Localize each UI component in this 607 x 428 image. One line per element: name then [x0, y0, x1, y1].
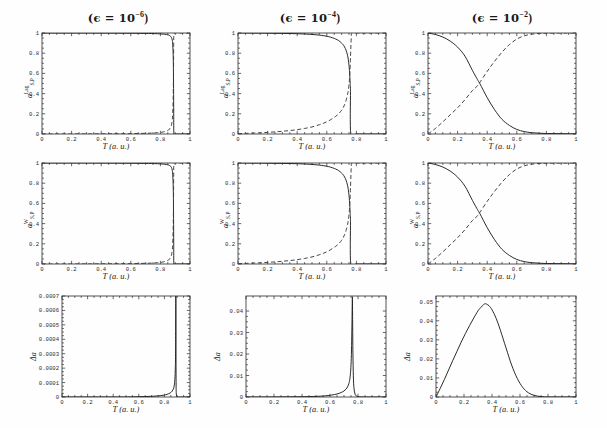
plot-svg-panel-r1c1: 00.20.40.60.8100.20.40.60.81T (a. u.) [22, 29, 196, 150]
x-axis-label: T (a. u.) [303, 405, 330, 413]
x-tick-label: 0 [236, 136, 240, 143]
x-tick-label: 1 [188, 266, 192, 273]
x-tick-label: 0.2 [453, 266, 463, 273]
x-tick-label: 0 [434, 399, 438, 406]
plot-frame [246, 296, 386, 397]
y-label-sup: Lag [409, 85, 415, 93]
y-tick-label: 0.0004 [39, 336, 60, 343]
y-tick-label: 0.8 [29, 180, 39, 187]
plot-panel-r1c1: 00.20.40.60.8100.20.40.60.81T (a. u.)aLa… [22, 29, 196, 150]
y-axis-label: aWS,P [409, 211, 421, 227]
x-tick-label: 0.8 [159, 399, 169, 406]
x-tick-label: 0.2 [263, 266, 273, 273]
series-solid-0 [428, 163, 576, 264]
plot-panel-r3c3: 00.20.40.60.8100.010.020.030.040.05T (a.… [402, 292, 582, 413]
epsilon-text: (ϵ = 10 [472, 11, 520, 25]
y-tick-label: 0.01 [420, 375, 434, 382]
series-solid-0 [238, 163, 386, 267]
x-tick-label: 0.8 [351, 266, 361, 273]
y-tick-label: 1 [232, 30, 236, 37]
y-tick-label: 0 [430, 394, 434, 401]
y-tick-label: 1 [232, 160, 236, 167]
x-tick-label: 0.2 [83, 399, 93, 406]
y-label-sub: S,P [29, 211, 35, 218]
x-tick-label: 0 [244, 399, 248, 406]
y-tick-label: 0.02 [230, 351, 243, 358]
x-axis-label: T (a. u.) [489, 142, 516, 150]
y-tick-label: 1 [36, 160, 40, 167]
y-tick-label: 0.6 [29, 70, 39, 77]
epsilon-paren-close: ) [336, 12, 340, 24]
x-tick-label: 0.8 [541, 266, 551, 273]
epsilon-paren-close: ) [144, 12, 148, 24]
y-tick-label: 0.04 [230, 308, 244, 315]
plot-panel-r3c2: 00.20.40.60.8100.010.020.030.04T (a. u.)… [212, 292, 392, 413]
y-label-base: Δa [403, 352, 412, 361]
plot-svg-panel-r2c2: 00.20.40.60.8100.20.40.60.81T (a. u.) [218, 159, 392, 280]
y-tick-label: 0 [232, 131, 236, 138]
y-label-base: a [411, 94, 420, 98]
y-label-base: a [221, 224, 230, 228]
y-label-sub: S,P [225, 78, 231, 85]
y-tick-label: 0 [232, 261, 236, 268]
plot-frame [238, 163, 386, 264]
plot-frame [238, 33, 386, 134]
plot-svg-panel-r3c1: 00.20.40.60.8100.00010.00020.00030.00040… [28, 292, 196, 413]
x-tick-label: 0 [60, 399, 64, 406]
x-tick-label: 0 [40, 136, 44, 143]
plot-panel-r3c1: 00.20.40.60.8100.00010.00020.00030.00040… [28, 292, 196, 413]
y-tick-label: 0.6 [415, 200, 425, 207]
y-tick-label: 0.2 [29, 241, 39, 248]
y-tick-label: 0.0006 [39, 307, 59, 314]
x-axis-label: T (a. u.) [299, 272, 326, 280]
plot-svg-panel-r2c1: 00.20.40.60.8100.20.40.60.81T (a. u.) [22, 159, 196, 280]
y-tick-label: 0.8 [415, 180, 425, 187]
x-tick-label: 0.2 [67, 266, 77, 273]
series-solid-0 [62, 294, 190, 397]
y-label-base: a [221, 94, 230, 98]
y-label-base: Δa [29, 352, 38, 361]
y-tick-label: 0.0003 [39, 351, 59, 358]
x-tick-label: 1 [384, 266, 388, 273]
y-tick-label: 0.2 [225, 111, 235, 118]
y-tick-label: 0 [36, 131, 40, 138]
plot-frame [42, 163, 190, 264]
x-tick-label: 0 [236, 266, 240, 273]
y-tick-label: 0 [422, 131, 426, 138]
y-axis-label: Δa [403, 352, 412, 361]
x-tick-label: 1 [384, 399, 388, 406]
y-label-base: a [25, 94, 34, 98]
series-dashed-1 [42, 32, 190, 134]
plot-frame [62, 296, 190, 397]
series-solid-0 [246, 297, 386, 397]
y-axis-label: aLagS,P [219, 78, 231, 98]
y-tick-label: 0.8 [415, 50, 425, 57]
plot-panel-r2c3: 00.20.40.60.8100.20.40.60.81T (a. u.)aWS… [408, 159, 582, 280]
y-label-sub: S,P [29, 78, 35, 85]
y-tick-label: 0.03 [420, 337, 433, 344]
epsilon-text: (ϵ = 10 [280, 11, 328, 25]
y-axis-label: aWS,P [23, 211, 35, 227]
y-tick-label: 0.8 [225, 180, 235, 187]
y-label-sub: S,P [415, 211, 421, 218]
plot-panel-r1c2: 00.20.40.60.8100.20.40.60.81T (a. u.)aLa… [218, 29, 392, 150]
x-axis-label: T (a. u.) [493, 405, 520, 413]
x-tick-label: 0.2 [453, 136, 463, 143]
x-axis-label: T (a. u.) [489, 272, 516, 280]
x-tick-label: 0.8 [155, 136, 165, 143]
x-tick-label: 0.2 [263, 136, 273, 143]
y-tick-label: 0.6 [29, 200, 39, 207]
y-axis-label: Δa [213, 352, 222, 361]
y-label-sup: W [23, 218, 29, 223]
plot-svg-panel-r1c3: 00.20.40.60.8100.20.40.60.81T (a. u.) [408, 29, 582, 150]
x-tick-label: 1 [188, 136, 192, 143]
series-dashed-1 [42, 162, 190, 264]
y-tick-label: 0 [422, 261, 426, 268]
x-tick-label: 1 [574, 266, 578, 273]
x-axis-label: T (a. u.) [299, 142, 326, 150]
y-tick-label: 0.8 [29, 50, 39, 57]
x-tick-label: 0.2 [269, 399, 279, 406]
column-title-col-eps-1e-4: (ϵ = 10−4) [240, 10, 380, 25]
y-tick-label: 0.2 [225, 241, 235, 248]
column-title-col-eps-1e-6: (ϵ = 10−6) [48, 10, 188, 25]
